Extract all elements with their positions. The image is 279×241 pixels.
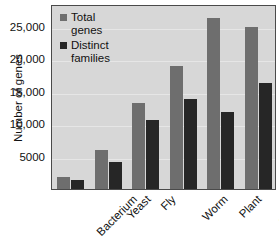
bar-group-worm [165, 6, 203, 189]
bar-fly-total-genes [132, 103, 145, 189]
y-axis-tick-label: 15,000 [10, 87, 45, 99]
bar-human-total-genes [245, 27, 258, 189]
x-axis-tick-label-worm: Worm [200, 193, 230, 223]
legend-swatch-icon [60, 14, 67, 21]
bar-yeast-distinct-families [109, 162, 122, 189]
legend-entry: Total genes [60, 11, 110, 37]
y-axis-tick-label: 5000 [19, 152, 45, 164]
bar-fly-distinct-families [146, 120, 159, 189]
bar-group-plant [202, 6, 240, 189]
x-axis-tick-labels: BacteriumYeastFlyWormPlantHuman [51, 190, 276, 241]
y-axis-tick-labels: 500010,00015,00020,00025,000 [0, 0, 48, 200]
x-axis-tick-label-plant: Plant [236, 193, 263, 220]
plot-area: Total genesDistinct families [51, 5, 276, 190]
bar-yeast-total-genes [95, 150, 108, 189]
y-axis-tick-label: 20,000 [10, 54, 45, 66]
bar-plant-total-genes [207, 18, 220, 189]
legend-label: Distinct families [71, 39, 110, 65]
legend-swatch-icon [60, 42, 67, 49]
y-axis-tick-label: 25,000 [10, 22, 45, 34]
gene-count-bar-chart: Number of genes 500010,00015,00020,00025… [0, 0, 279, 241]
bar-plant-distinct-families [221, 112, 234, 189]
x-axis-tick-label-human: Human [277, 193, 279, 228]
legend-label: Total genes [71, 11, 102, 37]
bar-group-human [240, 6, 277, 189]
bar-worm-distinct-families [184, 99, 197, 189]
y-axis-tick-label: 10,000 [10, 119, 45, 131]
legend: Total genesDistinct families [60, 11, 110, 67]
bar-human-distinct-families [259, 83, 272, 189]
bar-group-fly [127, 6, 165, 189]
legend-entry: Distinct families [60, 39, 110, 65]
bar-worm-total-genes [170, 66, 183, 189]
bar-bacterium-total-genes [57, 177, 70, 189]
bar-bacterium-distinct-families [71, 180, 84, 189]
x-axis-tick-label-fly: Fly [158, 193, 177, 212]
